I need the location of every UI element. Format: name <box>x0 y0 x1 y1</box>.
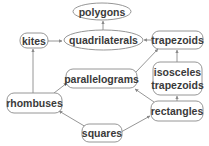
node-label-trapezoids: trapezoids <box>151 34 204 46</box>
node-label-quadrilaterals: quadrilaterals <box>69 34 138 46</box>
node-label-polygons: polygons <box>79 6 126 18</box>
quadrilateral-hierarchy-diagram: polygonsquadrilateralskitestrapezoidsiso… <box>0 0 209 146</box>
node-polygons: polygons <box>73 3 131 20</box>
edge-squares-to-rhombuses <box>59 111 86 127</box>
node-quadrilaterals: quadrilaterals <box>64 30 143 50</box>
node-squares: squares <box>82 124 122 142</box>
node-trapezoids: trapezoids <box>151 31 204 49</box>
edge-rhombuses-to-parallelograms <box>54 83 67 93</box>
node-kites: kites <box>20 33 48 48</box>
node-label-isosceles-trapezoids: isosceles <box>154 66 201 78</box>
node-label-parallelograms: parallelograms <box>64 73 139 85</box>
node-label-isosceles-trapezoids: trapezoids <box>151 79 204 91</box>
node-rectangles: rectangles <box>151 101 204 121</box>
node-isosceles-trapezoids: isoscelestrapezoids <box>151 62 204 95</box>
edge-squares-to-rectangles <box>121 116 150 132</box>
node-label-rectangles: rectangles <box>151 105 204 117</box>
node-parallelograms: parallelograms <box>64 69 139 88</box>
node-rhombuses: rhombuses <box>6 93 63 113</box>
node-label-kites: kites <box>22 35 46 47</box>
node-label-squares: squares <box>82 127 122 139</box>
node-label-rhombuses: rhombuses <box>6 97 63 109</box>
